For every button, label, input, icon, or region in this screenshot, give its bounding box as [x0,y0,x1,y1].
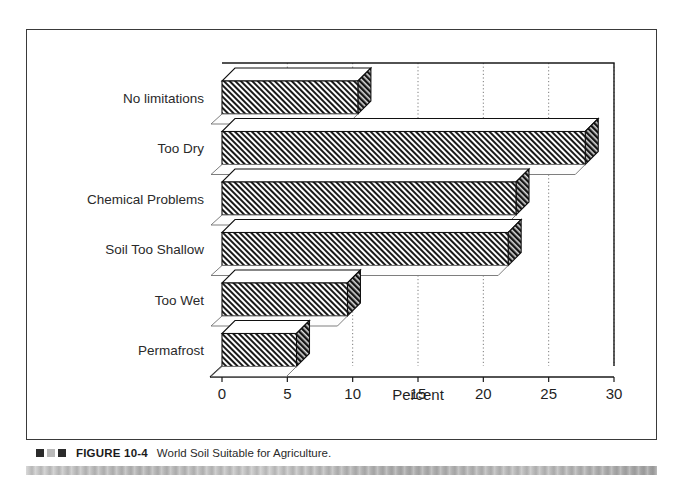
caption-marker-square-1 [36,449,44,457]
x-tick-label-25: 25 [540,385,557,402]
x-tick-label-10: 10 [344,385,361,402]
bar-3 [211,220,521,276]
bar-chart: 051015202530 No limitationsToo DryChemic… [0,0,681,482]
figure-caption-row: FIGURE 10-4 World Soil Suitable for Agri… [36,447,331,459]
category-labels: No limitationsToo DryChemical ProblemsSo… [87,91,204,359]
category-label-0: No limitations [123,91,204,106]
category-label-5: Permafrost [138,343,204,358]
bar-0 [211,68,371,124]
bar-1 [211,119,598,175]
decorative-bottom-band [26,466,657,475]
bar-5 [211,321,309,377]
category-label-1: Too Dry [157,141,204,156]
x-axis-title: Percent [392,386,445,403]
x-tick-label-20: 20 [475,385,492,402]
x-tick-label-5: 5 [283,385,291,402]
caption-marker-square-3 [58,449,66,457]
category-label-2: Chemical Problems [87,192,204,207]
caption-marker-square-2 [47,449,55,457]
x-tick-label-30: 30 [606,385,623,402]
figure-number-label: FIGURE 10-4 [76,447,148,459]
category-label-3: Soil Too Shallow [105,242,204,257]
x-tick-label-0: 0 [218,385,226,402]
figure-container: 051015202530 No limitationsToo DryChemic… [0,0,681,482]
figure-caption-text: World Soil Suitable for Agriculture. [157,447,331,459]
bar-2 [211,169,529,225]
category-label-4: Too Wet [155,293,205,308]
bar-4 [211,270,360,326]
bars-group [211,68,598,377]
